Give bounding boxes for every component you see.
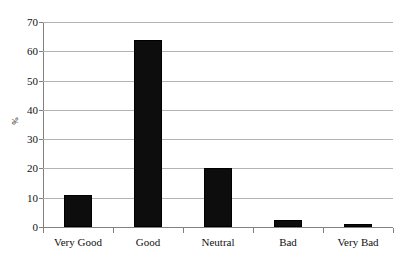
y-axis-tick-label: 60: [8, 46, 38, 57]
gridline: [43, 51, 393, 52]
x-axis-tick-mark: [393, 228, 394, 233]
y-axis-tick-mark: [39, 198, 43, 199]
x-axis-tick-mark: [113, 228, 114, 233]
y-axis-tick-labels: 010203040506070: [4, 0, 38, 262]
y-axis-tick-label: 10: [8, 193, 38, 204]
bar: [64, 195, 92, 227]
x-axis-tick-mark: [253, 228, 254, 233]
y-axis-tick-mark: [39, 168, 43, 169]
bar: [344, 224, 372, 227]
x-axis-category-label: Good: [113, 236, 183, 249]
x-axis-category-label: Bad: [253, 236, 323, 249]
y-axis-tick-mark: [39, 139, 43, 140]
bar: [134, 40, 162, 227]
y-axis-tick-label: 0: [8, 222, 38, 233]
axis-baseline: [43, 227, 393, 228]
y-axis-tick-label: 50: [8, 76, 38, 87]
x-axis-category-label: Very Bad: [323, 236, 393, 249]
y-axis-tick-label: 70: [8, 17, 38, 28]
bar-chart: % 010203040506070 Very GoodGoodNeutralBa…: [0, 0, 402, 262]
y-axis-tick-mark: [39, 51, 43, 52]
x-axis-tick-mark: [323, 228, 324, 233]
gridline: [43, 22, 393, 23]
y-axis-tick-label: 40: [8, 105, 38, 116]
y-axis-tick-label: 20: [8, 163, 38, 174]
gridline: [43, 110, 393, 111]
gridline: [43, 139, 393, 140]
y-axis-tick-mark: [39, 22, 43, 23]
x-axis-category-label: Neutral: [183, 236, 253, 249]
x-axis-category-label: Very Good: [43, 236, 113, 249]
y-axis-tick-mark: [39, 110, 43, 111]
y-axis-tick-mark: [39, 81, 43, 82]
x-axis-tick-mark: [43, 228, 44, 233]
bar: [274, 220, 302, 227]
plot-area: [43, 22, 393, 227]
bar: [204, 168, 232, 227]
gridline: [43, 81, 393, 82]
y-axis-tick-label: 30: [8, 134, 38, 145]
x-axis-tick-mark: [183, 228, 184, 233]
